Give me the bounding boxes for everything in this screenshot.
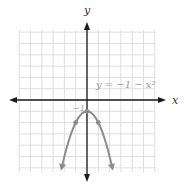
curve-arrow-icon <box>108 163 115 171</box>
y-axis <box>84 22 90 182</box>
y-axis-down-arrow-icon <box>84 174 90 182</box>
x-axis-left-arrow-icon <box>9 97 17 103</box>
equation-label: y = −1 − x² <box>95 79 156 90</box>
vertex-value-label: −1 <box>73 104 85 113</box>
curve-point <box>73 120 78 125</box>
y-axis-label: y <box>83 4 91 17</box>
curve-point <box>96 120 101 125</box>
x-axis-right-arrow-icon <box>158 97 166 103</box>
curve-point <box>85 109 90 114</box>
y-axis-up-arrow-icon <box>84 22 90 30</box>
curve-arrow-icon <box>59 163 66 171</box>
x-axis-label: x <box>172 94 179 107</box>
parabola-graph: y x y = −1 − x² −1 <box>0 0 185 188</box>
